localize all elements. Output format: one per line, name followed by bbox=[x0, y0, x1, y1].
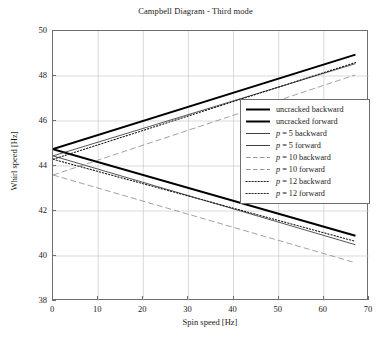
y-axis-title: Whirl speed [Hz] bbox=[9, 101, 19, 221]
legend-line-swatch bbox=[245, 152, 271, 163]
x-tick-label: 0 bbox=[40, 304, 64, 314]
y-tick-label: 44 bbox=[19, 160, 47, 170]
legend-line-swatch bbox=[245, 176, 271, 187]
y-tick-label: 50 bbox=[19, 25, 47, 35]
legend-item-label: uncracked backward bbox=[276, 104, 344, 115]
y-tick-label: 42 bbox=[19, 205, 47, 215]
legend-item-label: p = 5 forward bbox=[276, 140, 321, 151]
y-tickmark bbox=[52, 300, 56, 301]
legend-item-label: p = 5 backward bbox=[276, 128, 327, 139]
y-tickmark bbox=[52, 120, 56, 121]
y-tickmark bbox=[52, 165, 56, 166]
x-tickmark bbox=[52, 296, 53, 300]
x-tickmark bbox=[97, 296, 98, 300]
y-tickmark bbox=[52, 75, 56, 76]
y-tickmark bbox=[52, 255, 56, 256]
legend-line-swatch bbox=[245, 164, 271, 175]
legend-item: p = 10 backward bbox=[245, 151, 365, 163]
legend-item: p = 5 backward bbox=[245, 127, 365, 139]
y-tick-label: 46 bbox=[19, 115, 47, 125]
legend-line-swatch bbox=[245, 140, 271, 151]
legend-item-label: p = 10 backward bbox=[276, 152, 331, 163]
x-tickmark bbox=[233, 296, 234, 300]
legend-item-label: p = 12 forward bbox=[276, 188, 325, 199]
chart-title: Campbell Diagram - Third mode bbox=[0, 6, 391, 16]
legend-line-swatch bbox=[245, 116, 271, 127]
legend-item: p = 12 backward bbox=[245, 175, 365, 187]
x-tickmark bbox=[142, 296, 143, 300]
legend-item: uncracked backward bbox=[245, 103, 365, 115]
legend-line-swatch bbox=[245, 104, 271, 115]
x-axis-title: Spin speed [Hz] bbox=[52, 317, 368, 327]
legend-item: p = 10 forward bbox=[245, 163, 365, 175]
x-tick-label: 20 bbox=[130, 304, 154, 314]
x-tickmark bbox=[323, 296, 324, 300]
x-tick-label: 10 bbox=[85, 304, 109, 314]
campbell-diagram-figure: Campbell Diagram - Third mode 3840424446… bbox=[0, 0, 391, 345]
legend-item: p = 12 forward bbox=[245, 187, 365, 199]
x-tick-label: 70 bbox=[356, 304, 380, 314]
x-tick-label: 60 bbox=[311, 304, 335, 314]
legend-line-swatch bbox=[245, 188, 271, 199]
legend-item: p = 5 forward bbox=[245, 139, 365, 151]
legend-line-swatch bbox=[245, 128, 271, 139]
legend-item-label: p = 10 forward bbox=[276, 164, 325, 175]
y-tickmark bbox=[52, 30, 56, 31]
legend-item-label: p = 12 backward bbox=[276, 176, 331, 187]
x-tickmark bbox=[278, 296, 279, 300]
chart-legend: uncracked backwarduncracked forwardp = 5… bbox=[240, 99, 370, 204]
x-tick-label: 50 bbox=[266, 304, 290, 314]
y-tick-label: 48 bbox=[19, 70, 47, 80]
y-tickmark bbox=[52, 210, 56, 211]
x-tick-label: 30 bbox=[175, 304, 199, 314]
y-tick-label: 40 bbox=[19, 250, 47, 260]
x-tickmark bbox=[368, 296, 369, 300]
x-tickmark bbox=[187, 296, 188, 300]
legend-item: uncracked forward bbox=[245, 115, 365, 127]
x-tick-label: 40 bbox=[221, 304, 245, 314]
legend-item-label: uncracked forward bbox=[276, 116, 338, 127]
